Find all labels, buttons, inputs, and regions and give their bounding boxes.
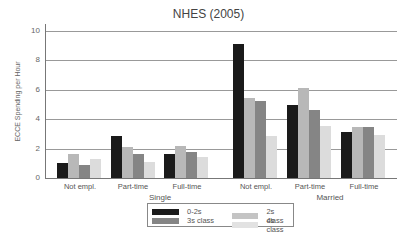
category-label: Not empl. [50,182,110,191]
legend-swatch [232,222,258,228]
legend-label: 3s class [187,216,214,225]
y-tick-label: 0 [20,173,40,182]
bar [309,110,320,178]
bar [341,132,352,178]
bar [90,159,101,178]
group-label-single: Single [130,193,190,202]
y-tick-label: 8 [20,55,40,64]
y-tick-label: 2 [20,144,40,153]
bar [197,157,208,178]
legend-label: 4s class [266,216,293,234]
legend: 0-2s 2s class 3s class 4s class [147,203,294,227]
bar [374,135,385,178]
bar [111,136,122,178]
category-label: Part-time [103,182,163,191]
y-tick-label: 4 [20,114,40,123]
bar [287,105,298,178]
y-axis-label: ECCE Spending per Hour [14,57,21,147]
bar [144,162,155,178]
gridline [45,31,397,32]
legend-label: 0-2s [187,207,202,216]
bar [320,126,331,178]
legend-item: 4s class [232,216,293,234]
bar [186,152,197,178]
bar [133,154,144,178]
bar [352,127,363,178]
category-label: Not empl. [226,182,286,191]
chart-title: NHES (2005) [0,7,417,21]
bar [266,136,277,178]
category-label: Part-time [280,182,340,191]
bar [363,127,374,178]
bar [255,101,266,178]
y-tick-label: 10 [20,26,40,35]
bar [175,146,186,178]
bar [244,98,255,178]
bar [68,154,79,178]
bar [79,165,90,178]
group-label-married: Married [300,193,360,202]
category-label: Full-time [334,182,394,191]
bar [164,154,175,178]
legend-swatch [152,218,179,224]
gridline [45,90,397,91]
y-tick-label: 6 [20,85,40,94]
gridline [45,119,397,120]
legend-swatch [152,209,179,215]
gridline [45,60,397,61]
category-label: Full-time [157,182,217,191]
bar [298,88,309,178]
x-axis [45,178,397,179]
y-axis [45,24,46,179]
bar [233,44,244,178]
legend-item: 3s class [152,216,214,225]
legend-item: 0-2s [152,207,202,216]
bar [122,147,133,178]
bar [57,163,68,178]
